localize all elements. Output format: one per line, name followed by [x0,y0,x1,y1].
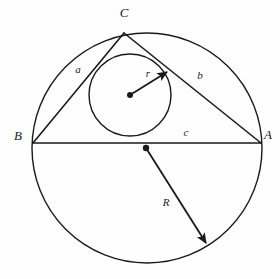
vertex-label-b: B [14,128,22,143]
side-label-b: b [197,69,203,81]
triangle-side-a [33,33,124,143]
vertex-label-c: C [120,5,129,20]
radius-label-r: r [146,67,151,79]
geometry-canvas: C B A a b c r R [0,0,280,279]
diagram-root: C B A a b c r R [0,0,280,279]
vertex-label-a: A [263,127,272,142]
triangle-side-b [124,33,261,143]
side-label-c: c [184,126,189,138]
circumcircle-radius-arrow [146,148,206,243]
radius-label-R: R [162,196,170,208]
side-label-a: a [75,63,81,75]
